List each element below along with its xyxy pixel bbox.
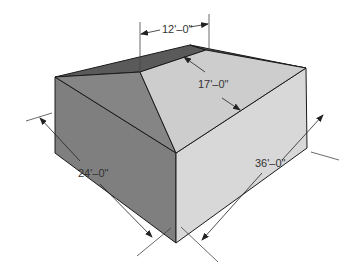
slope-dimension-label: 17'–0"	[198, 78, 229, 90]
length-dimension-label: 36'–0"	[255, 157, 286, 169]
width-dimension-label: 24'–0"	[78, 167, 109, 179]
hip-roof-diagram: 12'–0" 17'–0" 24'–0" 36'–0"	[0, 0, 358, 273]
ridge-dimension-label: 12'–0"	[162, 23, 193, 35]
